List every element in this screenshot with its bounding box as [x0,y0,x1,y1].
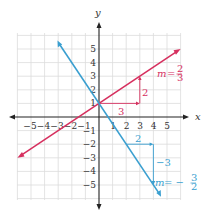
coordinate-plane: x y −5 −4 −3 −2 −1 1 2 3 4 5 5 4 3 2 1 −… [0,0,208,215]
y-tick: −4 [83,166,97,176]
y-tick: −5 [83,180,97,190]
blue-line [58,41,162,197]
y-axis-down-arrow-icon [97,204,102,210]
y-axis-up-arrow-icon [97,22,102,28]
red-run-label: 3 [118,106,124,117]
red-rise-label: 2 [142,87,148,98]
red-equals: = [167,68,175,79]
y-tick: −2 [83,139,96,149]
red-slope-label: m = 2 3 [157,63,183,83]
x-tick: −5 [23,121,37,131]
x-axis-label: x [195,111,201,122]
x-tick: −4 [37,121,51,131]
blue-slope-triangle [126,142,155,185]
x-tick: −3 [50,121,64,131]
blue-run-label: 2 [135,133,141,144]
blue-rise-label: −3 [156,157,171,168]
y-axis [97,22,102,210]
red-fraction-denominator: 3 [177,72,183,83]
y-axis-label: y [94,7,101,18]
x-axis-right-arrow-icon [183,115,189,120]
x-tick: 2 [124,121,130,131]
x-tick: 3 [137,121,143,131]
y-tick: 5 [90,44,96,54]
x-axis-left-arrow-icon [9,115,15,120]
y-tick: 4 [90,58,96,68]
red-m-symbol: m [157,68,166,79]
y-tick: 3 [90,71,96,81]
x-tick: 5 [164,121,170,131]
blue-equals: = − [164,177,184,188]
blue-slope-label: m = − 3 2 [155,172,197,192]
y-tick: −3 [83,153,97,163]
x-tick: 4 [151,121,157,131]
y-tick: −1 [83,126,96,136]
red-slope-triangle [99,76,142,105]
blue-fraction-denominator: 2 [191,181,197,192]
x-tick-labels: −5 −4 −3 −2 −1 1 2 3 4 5 [23,121,170,131]
